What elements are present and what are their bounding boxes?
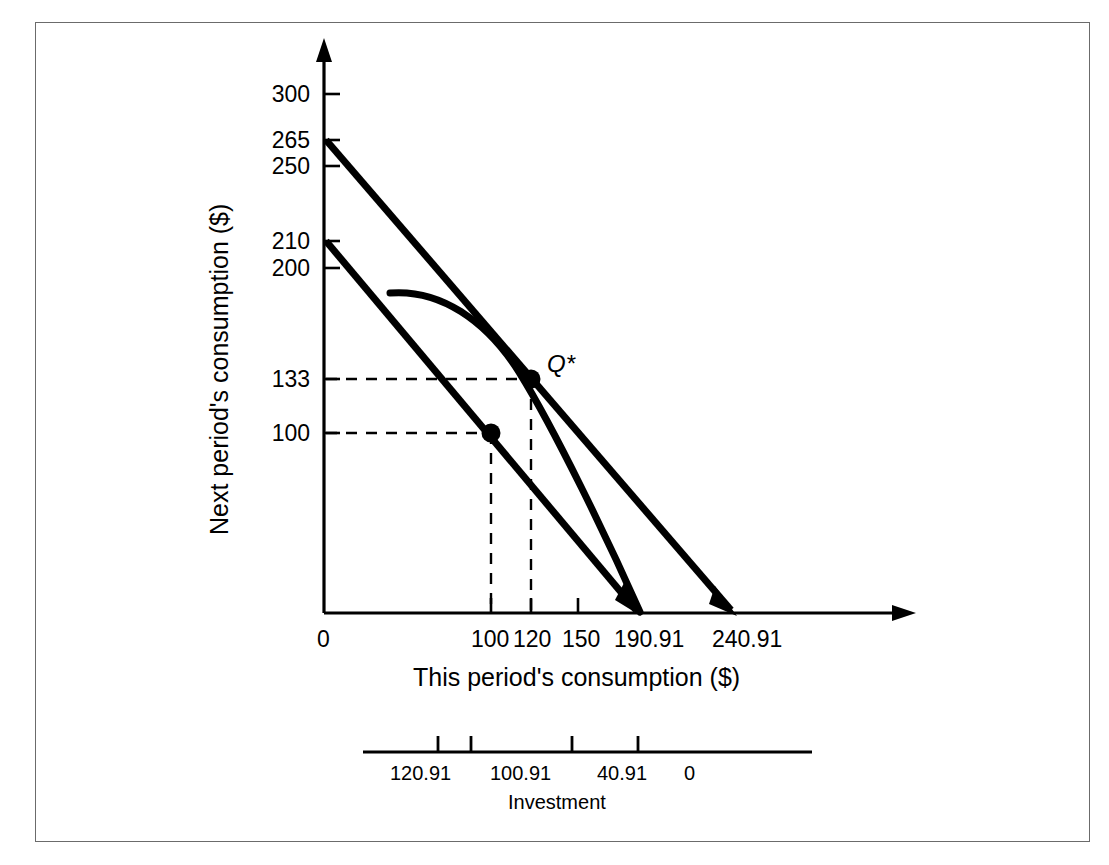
x-axis [324, 605, 916, 621]
investment-scale-axis [363, 736, 812, 752]
y-tick-label-100: 100 [238, 422, 310, 445]
optimum-point-label: Q* [547, 350, 575, 378]
y-tick-label-250: 250 [238, 155, 310, 178]
x-tick-label-100: 100 [471, 628, 509, 651]
guide-lines [326, 379, 531, 611]
y-tick-label-265: 265 [238, 129, 310, 152]
y-axis-title: Next period's consumption ($) [205, 204, 234, 535]
endowment-point-marker [482, 424, 501, 443]
y-tick-label-300: 300 [238, 83, 310, 106]
y-tick-label-210: 210 [238, 230, 310, 253]
investment-tick-label-100: 100.91 [490, 762, 551, 785]
x-tick-label-0: 0 [317, 628, 330, 651]
y-tick-label-133: 133 [238, 368, 310, 391]
x-axis-ticks [491, 598, 578, 613]
x-tick-label-240: 240.91 [712, 628, 782, 651]
investment-tick-label-40: 40.91 [597, 762, 647, 785]
y-tick-label-200: 200 [238, 257, 310, 280]
optimum-point-marker [522, 370, 541, 389]
x-tick-label-120: 120 [513, 628, 551, 651]
x-tick-label-150: 150 [562, 628, 600, 651]
investment-opportunity-curve [390, 293, 640, 612]
chart-canvas [0, 0, 1109, 865]
investment-tick-label-120: 120.91 [390, 762, 451, 785]
investment-tick-label-0: 0 [684, 762, 695, 785]
y-axis [316, 38, 332, 613]
investment-scale-title: Investment [508, 791, 606, 814]
x-axis-title: This period's consumption ($) [413, 663, 740, 692]
figure-container: 300 265 250 210 200 133 100 0 100 120 15… [0, 0, 1109, 865]
x-tick-label-190: 190.91 [614, 628, 684, 651]
